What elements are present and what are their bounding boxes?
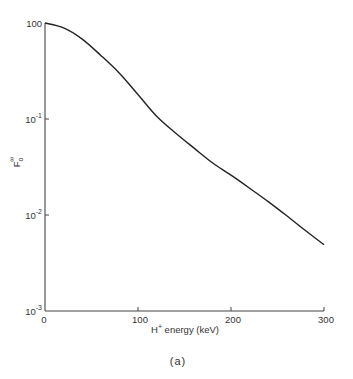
x-tick-label: 0	[41, 314, 46, 325]
data-curve	[45, 23, 324, 245]
figure-caption: (a)	[170, 355, 186, 367]
axes	[45, 23, 324, 311]
svg-text:Fo∞: Fo∞	[8, 157, 24, 168]
chart-figure: 0100200300 10010-110-210-3 H+ energy (ke…	[0, 0, 353, 379]
x-tick-label: 300	[318, 314, 334, 325]
y-axis-title: Fo∞	[8, 157, 24, 168]
y-tick-label: 10-3	[25, 304, 42, 317]
y-axis-title-sup: ∞	[8, 157, 15, 162]
y-tick-label: 10-2	[25, 208, 42, 221]
x-axis-title: H+ energy (keV)	[151, 323, 219, 335]
y-axis-title-sub: o	[17, 158, 24, 162]
y-tick-label: 10-1	[25, 112, 42, 125]
x-ticks: 0100200300	[41, 307, 334, 325]
x-tick-label: 100	[132, 314, 148, 325]
x-tick-label: 200	[225, 314, 241, 325]
y-tick-label: 100	[26, 18, 42, 29]
x-axis-title-rest: energy (keV)	[162, 324, 219, 335]
